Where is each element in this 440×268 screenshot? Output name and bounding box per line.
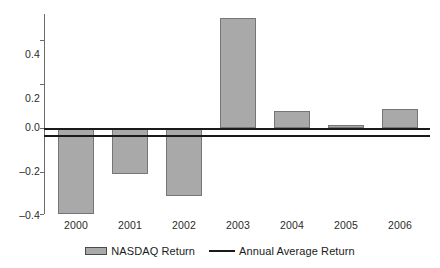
y-axis-tick-labels: 0.4 0.2 0.0 –0.2 –0.4 — [0, 14, 40, 214]
x-tick-label-2006: 2006 — [375, 219, 425, 231]
bars-layer — [44, 14, 430, 214]
chart-legend: NASDAQ Return Annual Average Return — [0, 243, 440, 259]
y-tick-label: 0.2 — [4, 93, 40, 104]
y-tick-label: 0.0 — [4, 122, 40, 133]
line-swatch-icon — [209, 250, 235, 252]
bar-2004 — [274, 111, 310, 128]
y-tick-label: –0.4 — [4, 210, 40, 221]
legend-label-nasdaq-return: NASDAQ Return — [111, 245, 195, 258]
x-tick-label-2003: 2003 — [213, 219, 263, 231]
bar-swatch-icon — [85, 247, 107, 255]
bar-2003 — [220, 18, 256, 128]
bar-2006 — [382, 109, 418, 128]
x-tick-label-2000: 2000 — [51, 219, 101, 231]
legend-entry-annual-average-return: Annual Average Return — [209, 245, 355, 258]
nasdaq-return-bar-chart: 0.4 0.2 0.0 –0.2 –0.4 2000 2001 — [0, 0, 440, 268]
x-tick-label-2002: 2002 — [159, 219, 209, 231]
y-tick-label: –0.2 — [4, 166, 40, 177]
legend-label-annual-average-return: Annual Average Return — [239, 245, 355, 258]
x-tick-label-2005: 2005 — [321, 219, 371, 231]
y-tick-label: 0.4 — [4, 49, 40, 60]
bar-2002 — [166, 128, 202, 196]
annual-average-return-line — [44, 135, 430, 137]
x-tick-label-2004: 2004 — [267, 219, 317, 231]
x-axis-tick-labels: 2000 2001 2002 2003 2004 2005 2006 — [44, 219, 430, 233]
legend-entry-nasdaq-return: NASDAQ Return — [85, 245, 195, 258]
y-tickmark — [40, 214, 44, 215]
zero-axis-line — [44, 128, 430, 130]
plot-area — [44, 14, 430, 214]
x-tick-label-2001: 2001 — [105, 219, 155, 231]
bar-2000 — [58, 128, 94, 214]
